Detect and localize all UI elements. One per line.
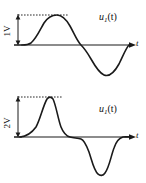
signal-label-top-arg: (t)	[108, 11, 117, 22]
signal-label-bottom-arg: (t)	[108, 103, 117, 114]
waveform-figure: 1V u1(t) t 2V u1(t) t	[0, 0, 146, 183]
waveform-panel-top: 1V u1(t) t	[0, 0, 146, 91]
amplitude-label-bottom: 2V	[2, 112, 12, 134]
waveform-panel-bottom: 2V u1(t) t	[0, 92, 146, 183]
amplitude-label-top: 1V	[2, 20, 12, 42]
t-axis-arrow-top	[129, 42, 136, 48]
waveform-plot-top	[0, 0, 146, 91]
signal-label-top: u1(t)	[99, 11, 117, 24]
t-axis-label-bottom: t	[136, 130, 139, 140]
waveform-plot-bottom	[0, 92, 146, 183]
amplitude-arrow-up-top	[16, 15, 21, 20]
t-axis-label-top: t	[136, 38, 139, 48]
signal-label-bottom: u1(t)	[99, 103, 117, 116]
amplitude-arrow-up-bottom	[16, 97, 21, 102]
